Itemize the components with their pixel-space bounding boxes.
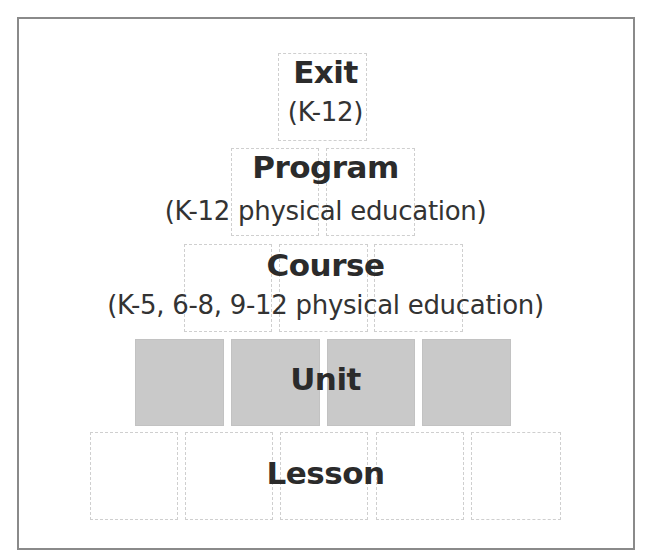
- level-program-subtitle: (K-12 physical education): [0, 196, 651, 226]
- level-course-title: Course: [0, 247, 651, 283]
- level-program-title: Program: [0, 149, 651, 185]
- level-unit-title: Unit: [0, 361, 651, 397]
- level-course-subtitle: (K-5, 6-8, 9-12 physical education): [0, 290, 651, 320]
- level-exit-subtitle: (K-12): [0, 97, 651, 127]
- level-lesson-title: Lesson: [0, 455, 651, 491]
- level-exit-title: Exit: [0, 54, 651, 90]
